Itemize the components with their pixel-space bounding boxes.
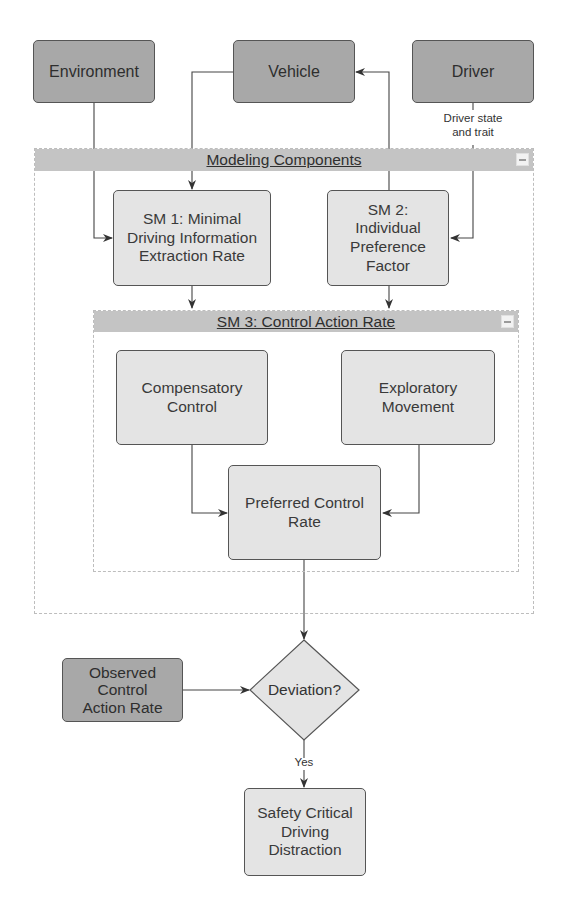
node-environment-label: Environment bbox=[49, 62, 139, 81]
node-sm2[interactable]: SM 2: Individual Preference Factor bbox=[327, 190, 449, 286]
group-header-sm3: SM 3: Control Action Rate bbox=[94, 311, 518, 332]
node-vehicle-label: Vehicle bbox=[268, 62, 320, 81]
node-sm1[interactable]: SM 1: Minimal Driving Information Extrac… bbox=[113, 190, 271, 286]
node-exploratory-label: Exploratory Movement bbox=[379, 379, 457, 416]
decision-label: Deviation? bbox=[250, 675, 359, 705]
collapse-icon[interactable] bbox=[516, 153, 529, 166]
node-compensatory-label: Compensatory Control bbox=[142, 379, 243, 416]
node-sm1-label: SM 1: Minimal Driving Information Extrac… bbox=[127, 210, 257, 266]
node-environment[interactable]: Environment bbox=[33, 40, 155, 103]
node-observed-label: Observed Control Action Rate bbox=[82, 664, 162, 715]
node-outcome-label: Safety Critical Driving Distraction bbox=[257, 804, 353, 860]
node-preferred-label: Preferred Control Rate bbox=[245, 494, 364, 531]
node-preferred-control-rate[interactable]: Preferred Control Rate bbox=[228, 465, 381, 560]
edge-label-driver-state: Driver state and trait bbox=[423, 112, 523, 140]
collapse-icon[interactable] bbox=[501, 315, 514, 328]
node-observed-control-action-rate[interactable]: Observed Control Action Rate bbox=[62, 658, 183, 722]
node-exploratory-movement[interactable]: Exploratory Movement bbox=[341, 350, 495, 445]
group-title-sm3: SM 3: Control Action Rate bbox=[217, 313, 395, 331]
node-compensatory-control[interactable]: Compensatory Control bbox=[116, 350, 268, 445]
node-driver-label: Driver bbox=[452, 62, 495, 81]
edge-label-yes: Yes bbox=[284, 756, 324, 770]
group-title-modeling-components: Modeling Components bbox=[206, 151, 361, 169]
node-sm2-label: SM 2: Individual Preference Factor bbox=[350, 201, 426, 275]
group-header-modeling-components: Modeling Components bbox=[35, 149, 533, 171]
node-driver[interactable]: Driver bbox=[412, 40, 534, 103]
node-safety-critical-distraction[interactable]: Safety Critical Driving Distraction bbox=[244, 788, 366, 876]
node-vehicle[interactable]: Vehicle bbox=[233, 40, 355, 103]
